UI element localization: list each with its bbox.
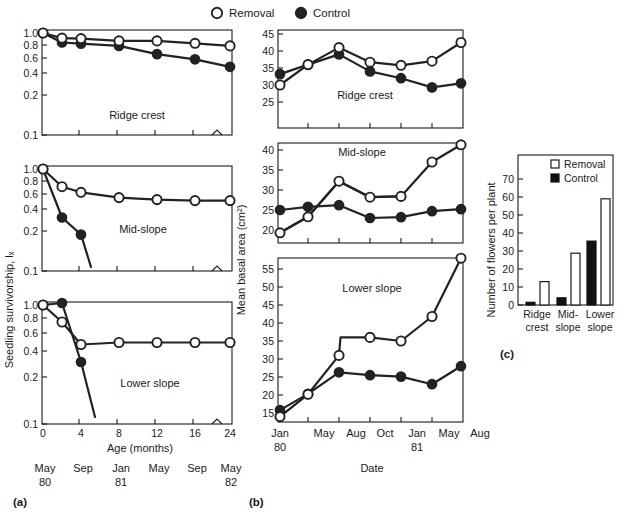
subpanel-title: Ridge crest	[337, 89, 393, 101]
bar-control-ridge-crest	[526, 302, 535, 305]
date-month: Jan	[112, 462, 130, 474]
y-tick-label: 30	[262, 353, 274, 365]
x-tick-label: 24	[224, 427, 236, 439]
figure-root: Removal Control Seedling survivorship, l…	[0, 0, 625, 512]
y-tick-label: 35	[262, 62, 274, 74]
date-year: 81	[411, 441, 423, 453]
subpanel-b-mid-slope: 40 35 30 25 20	[262, 140, 465, 243]
y-tick-label: 40	[502, 227, 514, 239]
x-ticks	[308, 123, 432, 128]
series-control-line	[43, 303, 95, 417]
y-tick-label: 0.4	[23, 203, 38, 215]
series-removal-line	[43, 305, 230, 345]
plot-frame	[278, 30, 463, 128]
y-tick-label: 0.4	[23, 345, 38, 357]
y-tick-label: 25	[262, 96, 274, 108]
subpanel-b-ridge-crest: 45 40 35 30 25	[262, 28, 465, 128]
y-tick-label: 0.1	[23, 265, 38, 277]
subpanel-a-lower-slope: 1.0 0.8 0.6 0.4 0.2 0.1 Lower	[23, 299, 234, 430]
y-tick-label: 20	[262, 389, 274, 401]
axis-break-icon	[212, 130, 222, 135]
panel-a-xlabel: Age (months)	[107, 442, 173, 454]
open-circle-icon	[212, 8, 222, 18]
x-tick-label: 16	[189, 427, 201, 439]
subpanel-title: Lower slope	[342, 282, 401, 294]
y-tick-label: 1.0	[23, 163, 38, 175]
y-ticks	[42, 305, 47, 424]
category-label: slope	[555, 321, 580, 333]
panel-c-legend: Removal Control	[551, 158, 605, 184]
y-ticks	[278, 34, 283, 102]
date-month: Oct	[376, 427, 393, 439]
x-ticks	[308, 238, 432, 243]
date-month: Aug	[470, 427, 490, 439]
subpanel-b-lower-slope: 55 50 45 40 35 30 25 20 15	[262, 254, 465, 422]
y-tick-label: 15	[262, 407, 274, 419]
panel-a: Seedling survivorship, lₓ 1.0 0.8 0.6 0.…	[3, 27, 242, 508]
panel-a-tag: (a)	[13, 496, 27, 508]
panel-b-ylabel: Mean basal area (cm²)	[235, 205, 247, 316]
y-tick-label: 30	[262, 184, 274, 196]
series-control-markers	[276, 362, 466, 415]
panel-b-date-labels: Jan 80 May Aug Oct Jan 81 May Aug	[271, 427, 490, 453]
y-tick-label: 25	[262, 371, 274, 383]
y-tick-label: 40	[262, 144, 274, 156]
panel-c-category-labels: Ridge crest Mid- slope Lower slope	[523, 308, 615, 333]
subpanel-a-mid-slope: 1.0 0.8 0.6 0.4 0.2 0.1 Mid-s	[23, 163, 234, 277]
y-tick-label: 0	[508, 299, 514, 311]
y-tick-label: 45	[262, 299, 274, 311]
bar-removal-lower-slope	[601, 199, 610, 305]
date-month: Aug	[346, 427, 366, 439]
y-tick-label: 0.6	[23, 52, 38, 64]
subpanel-title: Mid-slope	[119, 223, 167, 235]
y-tick-label: 20	[262, 224, 274, 236]
subpanel-title: Ridge crest	[109, 109, 165, 121]
legend-removal-label: Removal	[229, 7, 274, 19]
y-tick-label: 45	[262, 28, 274, 40]
y-tick-label: 0.6	[23, 327, 38, 339]
bar-removal-mid-slope	[571, 253, 580, 305]
y-tick-label: 0.2	[23, 371, 38, 383]
x-ticks	[308, 417, 432, 422]
subpanel-title: Lower slope	[120, 377, 179, 389]
y-tick-label: 0.2	[23, 225, 38, 237]
y-tick-label: 30	[262, 79, 274, 91]
y-tick-label: 0.2	[23, 89, 38, 101]
category-label: crest	[526, 321, 549, 333]
plot-frame	[42, 166, 232, 271]
date-year: 82	[225, 476, 237, 488]
panel-c: Number of flowers per plant 0 10 20 30 4…	[485, 155, 615, 360]
date-month: May	[149, 462, 170, 474]
category-label: slope	[587, 321, 612, 333]
panel-a-date-labels: May 80 Sep Jan 81 May Sep May 82	[35, 462, 242, 488]
series-removal-line	[43, 169, 230, 201]
y-tick-label: 0.4	[23, 67, 38, 79]
open-square-icon	[551, 160, 559, 168]
series-removal-markers	[38, 28, 234, 50]
legend-removal-label: Removal	[564, 158, 605, 170]
panel-a-ylabel: Seedling survivorship, lₓ	[3, 251, 15, 368]
date-month: Sep	[187, 462, 207, 474]
bar-control-mid-slope	[557, 298, 566, 305]
date-month: May	[439, 427, 460, 439]
x-ticks	[79, 130, 193, 135]
y-ticks	[518, 179, 523, 305]
legend-control-label: Control	[564, 172, 598, 184]
series-control-markers	[276, 50, 466, 92]
panel-b-tag: (b)	[249, 496, 264, 508]
y-tick-label: 0.1	[23, 129, 38, 141]
category-label: Lower	[586, 308, 615, 320]
bar-removal-ridge-crest	[540, 282, 549, 305]
y-tick-label: 1.0	[23, 27, 38, 39]
legend-control-label: Control	[313, 7, 350, 19]
y-tick-label: 25	[262, 204, 274, 216]
plot-frame	[42, 302, 232, 424]
y-tick-label: 40	[262, 45, 274, 57]
y-tick-label: 35	[262, 335, 274, 347]
panel-b-xlabel: Date	[360, 462, 383, 474]
y-tick-label: 70	[502, 173, 514, 185]
y-tick-label: 35	[262, 164, 274, 176]
x-tick-label: 12	[151, 427, 163, 439]
date-year: 80	[39, 476, 51, 488]
main-legend: Removal Control	[212, 7, 350, 19]
